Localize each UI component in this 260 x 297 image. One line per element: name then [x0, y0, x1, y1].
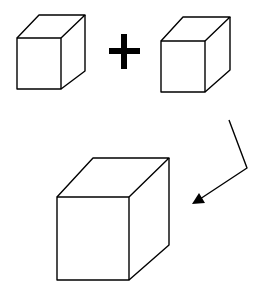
- plus-icon: [109, 34, 140, 69]
- arrow-icon: [192, 120, 247, 204]
- cube-addition-diagram: [0, 0, 260, 297]
- large-cube: [57, 158, 169, 280]
- small-cube-left: [17, 15, 85, 89]
- small-cube-right: [161, 17, 230, 92]
